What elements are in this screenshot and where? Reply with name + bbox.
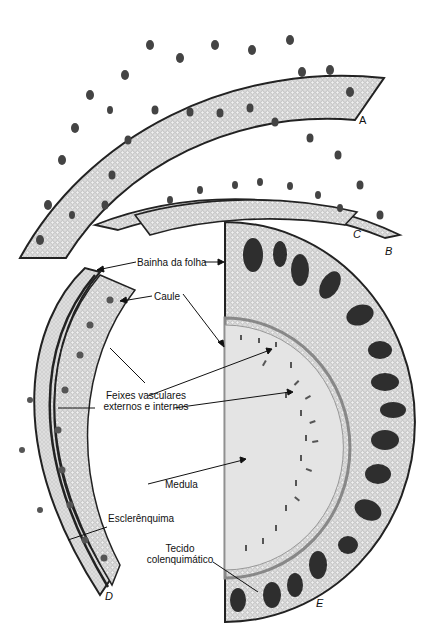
label-feixes-line1: Feixes vasculares	[96, 390, 196, 401]
panel-letter-a: A	[359, 114, 366, 126]
label-tecido-colenquimatico: Tecido colenquimático	[140, 543, 220, 565]
label-feixes-line2: externos e internos	[96, 401, 196, 412]
panel-letter-d: D	[105, 590, 113, 602]
panel-d-section	[19, 268, 135, 595]
label-caule: Caule	[154, 291, 180, 302]
label-feixes-vasculares: Feixes vasculares externos e internos	[96, 390, 196, 412]
label-medula: Medula	[165, 479, 198, 490]
panel-letter-c: C	[353, 228, 361, 240]
panel-a-section	[20, 35, 384, 258]
label-bainha-da-folha: Bainha da folha	[137, 257, 207, 268]
panel-letter-e: E	[316, 597, 323, 609]
label-esclerenquima: Esclerênquima	[108, 513, 174, 524]
panel-letter-b: B	[385, 245, 392, 257]
panel-e-section	[225, 222, 415, 622]
label-tecido-line1: Tecido	[140, 543, 220, 554]
label-tecido-line2: colenquimático	[140, 554, 220, 565]
figure-artwork	[0, 0, 424, 625]
